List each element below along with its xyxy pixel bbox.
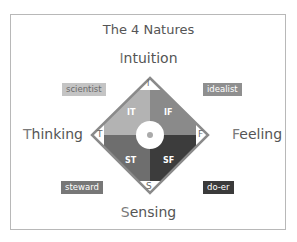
quadrant-label-st: ST (125, 156, 136, 165)
quadrant-label-if: IF (164, 108, 172, 117)
quadrant-label-it: IT (127, 108, 135, 117)
badge-idealist: idealist (203, 83, 242, 96)
corner-letter-f: F (198, 129, 203, 139)
badge-doer: do-er (203, 181, 234, 194)
corner-letter-t: T (97, 129, 103, 139)
corner-letter-s: S (146, 181, 152, 191)
corner-letter-i: I (147, 79, 149, 88)
center-dot (147, 132, 153, 138)
badge-steward: steward (61, 181, 103, 194)
natures-diamond (0, 0, 297, 242)
badge-scientist: scientist (62, 83, 106, 96)
quadrant-label-sf: SF (163, 156, 174, 165)
